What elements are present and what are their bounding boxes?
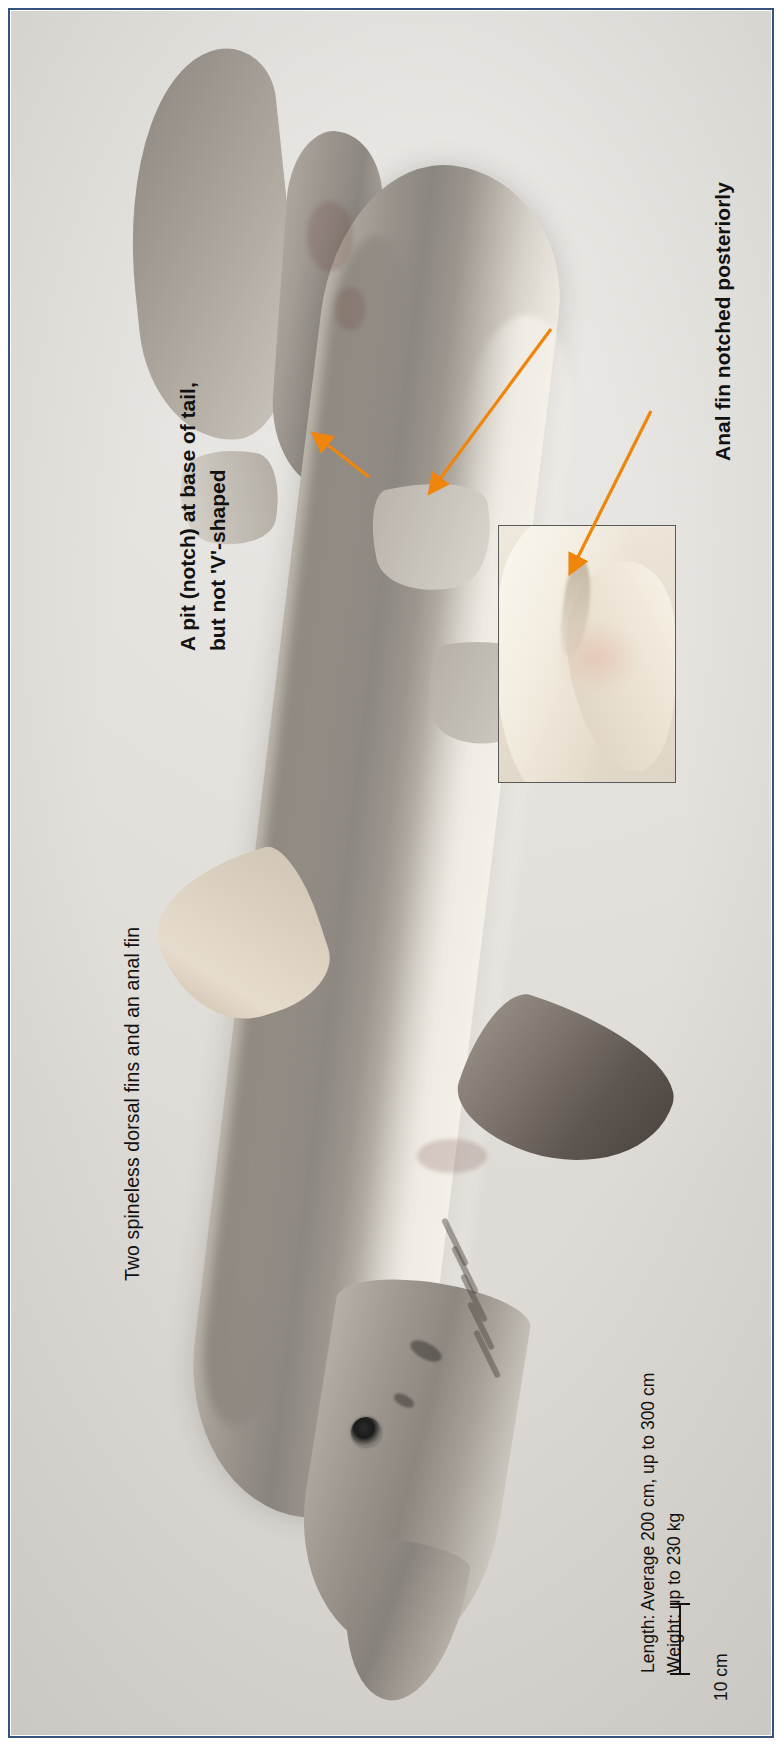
inset-photo-anal-fin: close-up of anal fin posterior notch [498, 525, 676, 783]
annotation-weight: Weight: up to 230 kg [661, 1373, 687, 1673]
inset-fin-flush [555, 622, 639, 692]
annotation-length: Length: Average 200 cm, up to 300 cm [638, 1373, 658, 1673]
scale-bar [679, 1603, 681, 1675]
annotation-anal-fin-notched: Anal fin notched posteriorly [711, 182, 735, 461]
annotation-tail-pit-line1: A pit (notch) at base of tail, [176, 382, 199, 651]
scale-bar-label: 10 cm [711, 1653, 732, 1701]
page-root: close-up of anal fin posterior notch Two… [0, 0, 784, 1748]
annotation-two-dorsal-fins: Two spineless dorsal fins and an anal fi… [121, 927, 144, 1281]
specimen-photo-plate: close-up of anal fin posterior notch Two… [11, 11, 771, 1735]
annotation-tail-pit-line2: but not 'V'-shaped [203, 382, 233, 651]
annotation-tail-pit: A pit (notch) at base of tail, but not '… [173, 382, 233, 651]
